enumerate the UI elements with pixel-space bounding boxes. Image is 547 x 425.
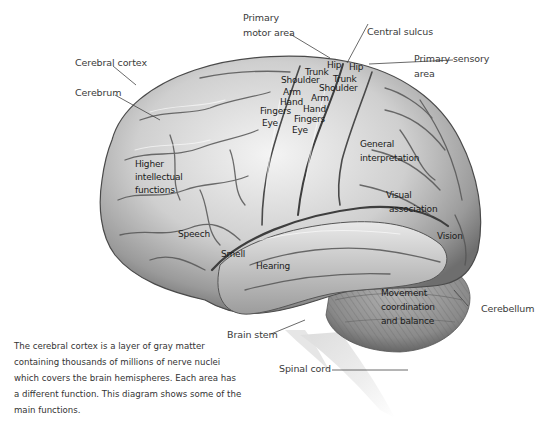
visual-association-label-line1: Visual xyxy=(386,190,412,201)
smell-label: Smell xyxy=(221,249,245,260)
primary-motor-area-label-line2: motor area xyxy=(243,27,295,39)
cerebral-cortex-label: Cerebral cortex xyxy=(75,57,147,69)
motor-hip-label: Hip xyxy=(327,60,341,71)
higher-intellectual-label-line3: functions xyxy=(135,185,175,196)
vision-label: Vision xyxy=(437,231,463,242)
higher-intellectual-label-line1: Higher xyxy=(135,159,164,170)
speech-label: Speech xyxy=(178,229,210,240)
sensory-fingers-label: Fingers xyxy=(294,114,325,125)
sensory-eye-label: Eye xyxy=(292,125,308,136)
cerebrum-label: Cerebrum xyxy=(75,87,121,99)
primary-motor-area-label-line1: Primary xyxy=(243,12,279,24)
motor-shoulder-label: Shoulder xyxy=(281,75,319,86)
movement-label-line1: Movement xyxy=(381,288,427,299)
movement-label-line2: coordination xyxy=(381,302,435,313)
motor-fingers-label: Fingers xyxy=(260,106,291,117)
sensory-arm-label: Arm xyxy=(311,93,329,104)
general-interpretation-label-line2: interpretation xyxy=(360,153,419,164)
brain-diagram: Primary motor area Central sulcus Primar… xyxy=(0,0,547,425)
hearing-label: Hearing xyxy=(256,261,290,272)
primary-sensory-area-label-line1: Primary sensory xyxy=(414,53,489,65)
movement-label-line3: and balance xyxy=(381,316,434,327)
visual-association-label-line2: association xyxy=(389,204,437,215)
sensory-hip-label: Hip xyxy=(349,62,363,73)
motor-eye-label: Eye xyxy=(262,118,278,129)
diagram-caption: The cerebral cortex is a layer of gray m… xyxy=(14,338,242,418)
spinal-cord-label: Spinal cord xyxy=(279,363,331,375)
primary-sensory-area-label-line2: area xyxy=(414,68,435,80)
general-interpretation-label-line1: General xyxy=(360,139,394,150)
cerebellum-label: Cerebellum xyxy=(481,303,534,315)
central-sulcus-label: Central sulcus xyxy=(367,26,433,38)
higher-intellectual-label-line2: intellectual xyxy=(135,172,183,183)
